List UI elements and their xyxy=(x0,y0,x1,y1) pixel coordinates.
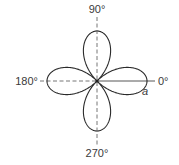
petal-tip-label-a: a xyxy=(142,85,148,97)
label-90: 90° xyxy=(89,3,106,15)
label-0: 0° xyxy=(158,75,169,87)
origin-point xyxy=(95,79,98,82)
polar-rose-diagram: 90° 180° 0° 270° a xyxy=(0,0,179,165)
label-180: 180° xyxy=(15,75,38,87)
label-270: 270° xyxy=(86,147,109,159)
